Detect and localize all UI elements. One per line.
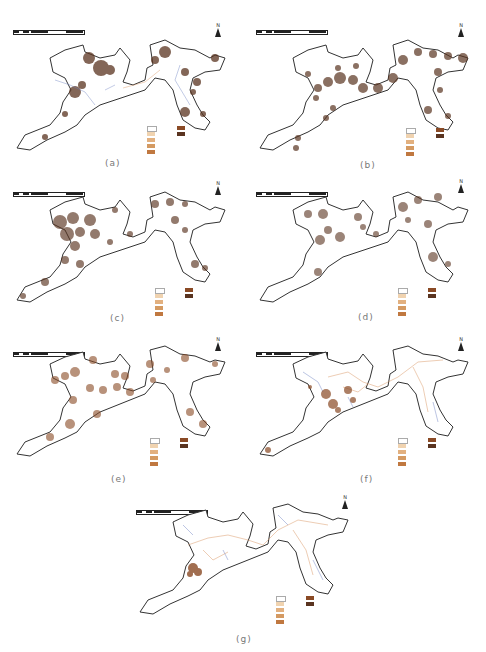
map-legend (398, 432, 483, 472)
map-legend (147, 120, 232, 160)
panel-caption: (a) (105, 158, 121, 168)
panel-caption: (c) (110, 313, 125, 323)
panel-caption: (f) (360, 474, 373, 484)
map-legend (150, 432, 235, 472)
map-legend (276, 590, 361, 630)
map-legend (398, 282, 483, 322)
map-panel-e: N (e) (5, 332, 235, 492)
map-panel-g: N (g) (128, 490, 358, 650)
panel-caption: (b) (360, 160, 376, 170)
map-panel-c: N (c) (5, 172, 235, 332)
map-panel-b: N (b) (248, 10, 478, 170)
map-legend (406, 122, 486, 162)
map-panel-a: N (a) (5, 10, 235, 170)
map-panel-d: N (d) (248, 172, 478, 332)
map-panel-f: N (f) (248, 332, 478, 492)
panel-caption: (g) (236, 634, 252, 644)
panel-caption: (d) (358, 312, 374, 322)
panel-caption: (e) (111, 474, 127, 484)
map-legend (155, 282, 240, 322)
